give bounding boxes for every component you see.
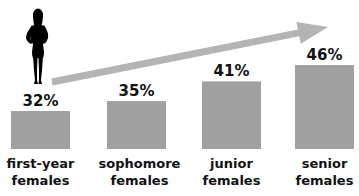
bar-chart: 32%35%41%46% first-yearfemalessophomoref… bbox=[0, 0, 359, 196]
category-label-4-line-1: senior bbox=[302, 156, 348, 171]
category-label-3-line-1: junior bbox=[209, 156, 253, 171]
trend-arrow bbox=[51, 22, 328, 85]
value-label-1: 32% bbox=[23, 92, 59, 110]
category-label-4-line-2: females bbox=[296, 173, 354, 188]
female-silhouette-icon bbox=[26, 9, 48, 85]
trend-arrow-shape bbox=[51, 22, 328, 85]
category-label-2-line-2: females bbox=[111, 173, 169, 188]
bar-1 bbox=[11, 111, 70, 149]
category-labels: first-yearfemalessophomorefemalesjuniorf… bbox=[7, 156, 354, 188]
bar-4 bbox=[295, 65, 354, 149]
value-label-3: 41% bbox=[214, 62, 250, 80]
category-label-1-line-2: females bbox=[12, 173, 70, 188]
bar-2 bbox=[107, 101, 166, 149]
value-label-2: 35% bbox=[119, 82, 155, 100]
category-label-3-line-2: females bbox=[203, 173, 261, 188]
category-label-2-line-1: sophomore bbox=[99, 156, 181, 171]
bar-3 bbox=[202, 81, 261, 149]
category-label-1-line-1: first-year bbox=[7, 156, 75, 171]
value-label-4: 46% bbox=[307, 46, 343, 64]
